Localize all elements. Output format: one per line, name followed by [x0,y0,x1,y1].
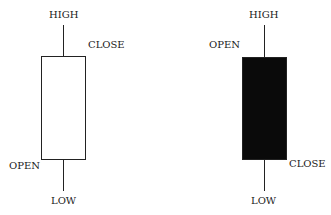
bullish-upper-wick [63,25,64,57]
bearish-candle-body [242,57,287,160]
bearish-high-label: HIGH [249,9,278,21]
bullish-close-label: CLOSE [88,39,125,51]
bullish-candle-body [41,56,86,160]
bearish-upper-wick [264,25,265,57]
bearish-close-label: CLOSE [289,158,326,170]
bearish-low-label: LOW [251,195,276,207]
bearish-open-label: OPEN [209,39,240,51]
bearish-lower-wick [264,159,265,191]
bullish-lower-wick [63,159,64,191]
bullish-high-label: HIGH [49,9,78,21]
bullish-low-label: LOW [51,195,76,207]
bullish-open-label: OPEN [9,160,40,172]
